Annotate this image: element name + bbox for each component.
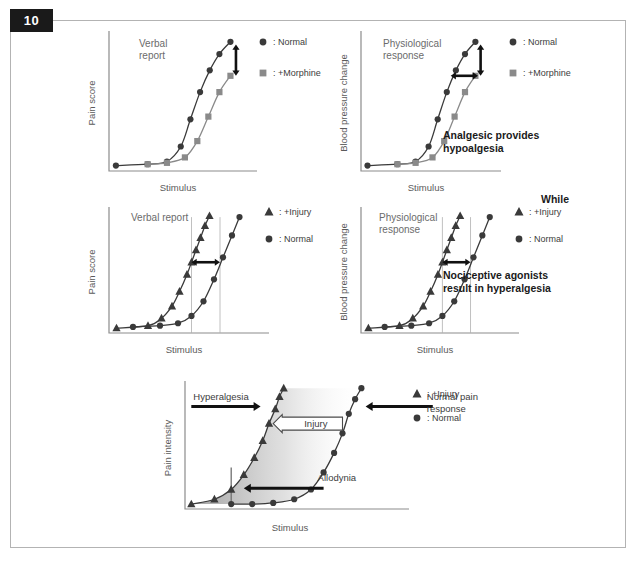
datapoint-0-4 (426, 287, 434, 295)
legend-symbol-1 (414, 415, 421, 422)
datapoint-0-10 (205, 211, 213, 219)
datapoint-0-8 (227, 39, 233, 45)
datapoint-1-0 (130, 324, 136, 330)
datapoint-1-6 (470, 254, 476, 260)
panel-inner-title: Physiologicalresponse (383, 38, 441, 61)
datapoint-1-4 (451, 298, 457, 304)
annotation-arrow-0-head (254, 402, 261, 411)
legend-symbol-0 (260, 39, 267, 46)
y-axis-label: Blood pressure change (338, 54, 349, 152)
chart-verbal-injury: Verbal reportStimulusPain score: +Injury… (73, 199, 318, 367)
panel-inner-title: Verbalreport (139, 38, 167, 61)
annotation-arrow-0-head-1 (465, 259, 470, 266)
datapoint-1-6 (220, 254, 226, 260)
datapoint-0-5 (197, 89, 203, 95)
y-axis-label: Pain score (86, 81, 97, 126)
x-axis-label: Stimulus (408, 182, 445, 193)
datapoint-1-8 (487, 214, 493, 220)
panel-verbal-morphine: VerbalreportStimulusPain score: Normal: … (73, 21, 318, 201)
datapoint-1-0 (145, 161, 151, 167)
datapoint-1-8 (346, 411, 352, 417)
datapoint-0-0 (364, 162, 370, 168)
note-hyperalgesia: Nociceptive agonistsresult in hyperalges… (443, 269, 623, 295)
datapoint-1-2 (270, 500, 276, 506)
datapoint-1-9 (352, 396, 358, 402)
datapoint-0-8 (447, 233, 455, 241)
x-axis-label: Stimulus (417, 344, 454, 355)
datapoint-0-8 (196, 233, 204, 241)
datapoint-0-3 (178, 143, 184, 149)
x-axis-label: Stimulus (272, 522, 309, 533)
datapoint-1-3 (291, 496, 297, 502)
datapoint-1-7 (229, 232, 235, 238)
chart-verbal-morphine: VerbalreportStimulusPain score: Normal: … (73, 21, 318, 201)
datapoint-1-6 (331, 450, 337, 456)
datapoint-1-5 (211, 276, 217, 282)
x-axis-label: Stimulus (166, 344, 203, 355)
datapoint-1-2 (175, 320, 181, 326)
datapoint-1-0 (394, 161, 400, 167)
y-axis-label: Pain score (86, 250, 97, 295)
datapoint-1-5 (462, 89, 468, 95)
datapoint-0-7 (216, 51, 222, 57)
note-while: While (541, 193, 621, 206)
datapoint-0-6 (207, 67, 213, 73)
plot-area-allodynia-summary: HyperalgesiaNormal painresponseInjuryAll… (162, 381, 478, 533)
panel-inner-title: Verbal report (131, 212, 188, 223)
note-hypoalgesia: Analgesic provideshypoalgesia (443, 129, 613, 155)
x-axis-label: Stimulus (160, 182, 197, 193)
datapoint-0-10 (456, 211, 464, 219)
datapoint-0-7 (443, 246, 451, 254)
plot-area-physio-morphine: PhysiologicalresponseStimulusBlood press… (338, 31, 571, 193)
annotation-label-3: Allodynia (318, 472, 357, 483)
datapoint-1-1 (413, 160, 419, 166)
datapoint-0-5 (183, 270, 191, 278)
annotation-arrow-0-head-1 (215, 259, 220, 266)
datapoint-1-2 (182, 154, 188, 160)
datapoint-1-0 (228, 501, 234, 507)
legend-label-0: : Normal (273, 37, 307, 47)
injury-arrow-label: Injury (304, 418, 327, 429)
datapoint-1-4 (452, 114, 458, 120)
annotation-label-0: Hyperalgesia (193, 391, 249, 402)
legend-symbol-1 (510, 70, 517, 77)
datapoint-0-4 (435, 116, 441, 122)
datapoint-1-3 (188, 313, 194, 319)
datapoint-1-1 (249, 501, 255, 507)
plot-area-verbal-injury: Verbal reportStimulusPain score: +Injury… (86, 207, 313, 355)
datapoint-1-6 (227, 73, 233, 79)
legend-label-0: : +Injury (529, 207, 562, 217)
datapoint-1-10 (358, 385, 364, 391)
datapoint-1-0 (382, 324, 388, 330)
datapoint-1-1 (157, 323, 163, 329)
datapoint-0-3 (419, 302, 427, 310)
datapoint-0-9 (280, 384, 288, 392)
datapoint-0-5 (434, 270, 442, 278)
datapoint-0-7 (462, 51, 468, 57)
legend-label-0: : Normal (523, 37, 557, 47)
datapoint-0-4 (175, 287, 183, 295)
datapoint-1-4 (200, 298, 206, 304)
chart-allodynia-summary: HyperalgesiaNormal painresponseInjuryAll… (151, 373, 511, 549)
datapoint-0-3 (426, 143, 432, 149)
legend-symbol-0 (412, 389, 421, 397)
panel-physio-morphine: PhysiologicalresponseStimulusBlood press… (321, 21, 571, 201)
panel-allodynia-summary: HyperalgesiaNormal painresponseInjuryAll… (151, 373, 511, 549)
datapoint-0-9 (201, 221, 209, 229)
datapoint-1-2 (429, 154, 435, 160)
datapoint-0-5 (444, 89, 450, 95)
figure-number-badge: 10 (10, 9, 53, 32)
figure-number-text: 10 (24, 13, 39, 28)
chart-physio-morphine: PhysiologicalresponseStimulusBlood press… (321, 21, 571, 201)
legend-symbol-0 (264, 207, 273, 215)
datapoint-0-3 (168, 302, 176, 310)
datapoint-0-9 (452, 221, 460, 229)
annotation-arrow-0-head-0 (477, 45, 484, 50)
legend-symbol-1 (266, 236, 273, 243)
datapoint-1-5 (216, 89, 222, 95)
datapoint-0-0 (113, 162, 119, 168)
datapoint-1-1 (164, 160, 170, 166)
legend-label-1: : Normal (279, 234, 313, 244)
legend-label-1: : Normal (427, 413, 461, 423)
datapoint-0-7 (192, 246, 200, 254)
